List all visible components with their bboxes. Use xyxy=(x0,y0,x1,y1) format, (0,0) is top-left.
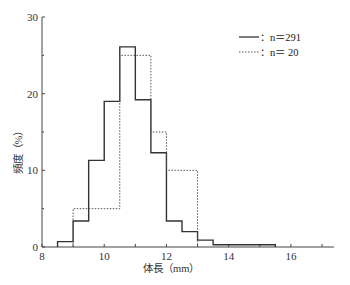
x-tick-label: 16 xyxy=(285,250,297,262)
y-tick-label: 10 xyxy=(27,164,39,176)
x-tick-label: 12 xyxy=(161,250,172,262)
x-tick-label: 8 xyxy=(39,250,45,262)
y-axis-title: 頻度（%） xyxy=(12,126,24,175)
histogram-n291 xyxy=(58,47,276,247)
y-tick-label: 30 xyxy=(27,11,39,23)
legend: ：n＝291 ：n＝ 20 xyxy=(239,32,301,58)
x-tick-label: 14 xyxy=(223,250,235,262)
legend-label-solid: ：n＝291 xyxy=(260,32,301,43)
x-axis-title: 体長（mm） xyxy=(143,263,199,274)
x-tick-label: 10 xyxy=(99,250,111,262)
y-tick-label: 20 xyxy=(27,88,39,100)
histogram-chart: 0102030810121416 ：n＝291 ：n＝ 20 体長（mm） 頻度… xyxy=(0,0,350,285)
y-tick-label: 0 xyxy=(33,241,39,253)
series-n291-solid xyxy=(58,47,276,247)
legend-label-dotted: ：n＝ 20 xyxy=(260,47,298,58)
